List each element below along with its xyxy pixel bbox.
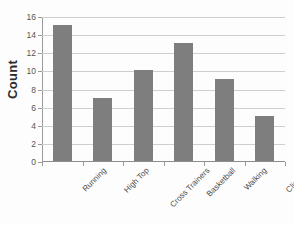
gridline [42, 144, 285, 145]
y-tick-mark [38, 35, 42, 36]
y-tick-label: 8 [31, 85, 36, 95]
y-tick-mark [38, 53, 42, 54]
y-tick-label: 10 [27, 66, 36, 76]
x-tick-mark [164, 162, 165, 166]
y-tick-mark [38, 17, 42, 18]
x-tick-mark [83, 162, 84, 166]
bar [134, 70, 153, 161]
gridline [42, 108, 285, 109]
bar [174, 43, 193, 161]
y-axis-title: Count [5, 45, 20, 115]
x-axis-label: Walking [242, 166, 268, 192]
y-tick-label: 2 [31, 139, 36, 149]
y-tick-label: 14 [27, 30, 36, 40]
y-tick-label: 6 [31, 103, 36, 113]
y-tick-label: 16 [27, 12, 36, 22]
bar [255, 116, 274, 161]
bar [93, 98, 112, 161]
x-tick-mark [285, 162, 286, 166]
bar [53, 25, 72, 161]
y-tick-mark [38, 108, 42, 109]
x-axis-label: Cross Trainers [168, 166, 211, 209]
bar-chart: Count 1614121086420 RunningHigh TopCross… [0, 0, 294, 225]
plot-area: 1614121086420 [42, 17, 285, 162]
gridline [42, 17, 285, 18]
y-tick-mark [38, 126, 42, 127]
y-tick-mark [38, 90, 42, 91]
x-axis-label: Running [81, 166, 108, 193]
gridline [42, 53, 285, 54]
x-axis-line [42, 161, 285, 162]
y-tick-mark [38, 71, 42, 72]
y-tick-label: 12 [27, 48, 36, 58]
bar [215, 79, 234, 161]
y-tick-label: 0 [31, 157, 36, 167]
y-tick-label: 4 [31, 121, 36, 131]
x-tick-mark [42, 162, 43, 166]
gridline [42, 71, 285, 72]
gridline [42, 126, 285, 127]
x-axis-label: High Top [122, 166, 151, 195]
y-tick-mark [38, 144, 42, 145]
x-axis-label: Climbing [284, 166, 294, 194]
x-tick-mark [123, 162, 124, 166]
chart-title [0, 0, 294, 6]
gridline [42, 90, 285, 91]
x-tick-mark [245, 162, 246, 166]
gridline [42, 35, 285, 36]
